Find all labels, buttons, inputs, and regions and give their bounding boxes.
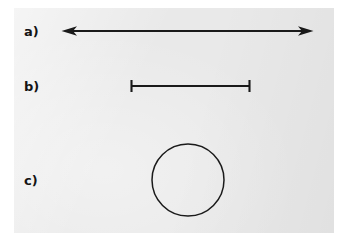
figure-drawing [0,0,348,249]
row-a-double-headed-arrow [62,26,314,36]
row-b-ibeam-segment [131,80,250,92]
row-c-circle [152,144,224,216]
row-c-circle-outline [152,144,224,216]
row-label-c: c) [24,174,38,187]
row-label-a: a) [24,25,39,38]
figure-root: a) b) c) [0,0,348,249]
row-label-b: b) [24,80,39,93]
